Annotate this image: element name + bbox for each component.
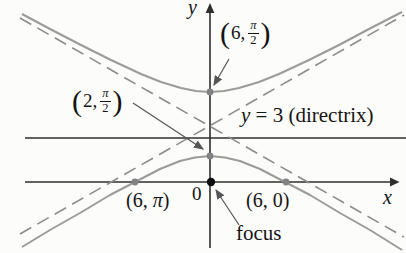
left-intercept-dot bbox=[132, 179, 139, 186]
fraction-numerator: π bbox=[248, 19, 258, 34]
focus-dot bbox=[207, 178, 215, 186]
y-axis-label: y bbox=[188, 0, 197, 18]
lower-vertex-dot bbox=[207, 153, 214, 160]
origin-label: 0 bbox=[192, 184, 202, 205]
lower-vertex-arrow bbox=[133, 103, 203, 149]
open-paren: ( bbox=[72, 87, 82, 116]
fraction-denominator: 2 bbox=[102, 102, 108, 116]
hyperbola-lower-branch bbox=[22, 156, 402, 250]
theta-fraction: π 2 bbox=[100, 87, 110, 116]
y-axis-arrowhead bbox=[206, 3, 215, 13]
fraction-numerator: π bbox=[100, 87, 110, 102]
directrix-label: y = 3 (directrix) bbox=[241, 104, 374, 127]
r-value: 6, bbox=[231, 23, 245, 44]
fraction-denominator: 2 bbox=[250, 34, 256, 48]
x-axis-label: x bbox=[383, 186, 392, 208]
focus-arrow bbox=[216, 190, 239, 225]
pi-symbol: π bbox=[153, 189, 163, 211]
polar-conic-figure: y x 0 ( 6, π 2 ) ( 2, π 2 ) y = 3 (direc… bbox=[0, 0, 406, 253]
label-prefix: (6, bbox=[126, 189, 153, 211]
right-intercept-label: (6, 0) bbox=[246, 189, 289, 211]
directrix-variable: y bbox=[241, 103, 250, 127]
close-paren: ) bbox=[113, 87, 123, 116]
left-intercept-label: (6, π) bbox=[126, 189, 169, 211]
r-value: 2, bbox=[83, 91, 97, 112]
lower-vertex-label: ( 2, π 2 ) bbox=[72, 87, 123, 116]
close-paren: ) bbox=[261, 19, 271, 48]
upper-vertex-label: ( 6, π 2 ) bbox=[220, 19, 271, 48]
theta-fraction: π 2 bbox=[248, 19, 258, 48]
focus-label: focus bbox=[236, 222, 282, 245]
upper-vertex-arrow bbox=[214, 59, 229, 85]
upper-vertex-dot bbox=[207, 89, 214, 96]
label-suffix: ) bbox=[163, 189, 170, 211]
asymptote-falling bbox=[20, 18, 404, 237]
directrix-text: = 3 (directrix) bbox=[250, 103, 373, 127]
right-intercept-dot bbox=[283, 179, 290, 186]
open-paren: ( bbox=[220, 19, 230, 48]
